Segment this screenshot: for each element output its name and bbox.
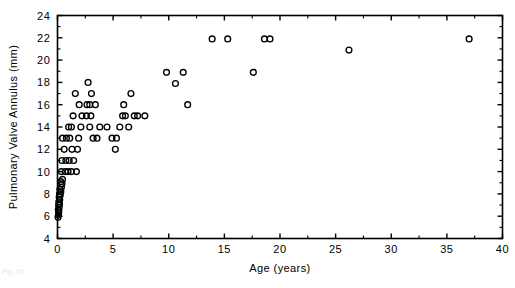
data-point bbox=[76, 135, 82, 141]
y-tick-label: 24 bbox=[37, 10, 50, 22]
y-axis-tick-labels: 4681012141618202224 bbox=[37, 10, 50, 245]
data-point bbox=[209, 36, 215, 42]
data-point bbox=[78, 124, 84, 130]
data-point bbox=[117, 124, 123, 130]
data-point bbox=[70, 113, 76, 119]
data-point-markers bbox=[55, 36, 472, 220]
figure-caption: Fig. 10. bbox=[2, 268, 25, 275]
y-tick-label: 8 bbox=[44, 188, 51, 200]
y-tick-label: 16 bbox=[37, 99, 50, 111]
x-tick-label: 15 bbox=[218, 243, 231, 255]
x-tick-label: 25 bbox=[329, 243, 342, 255]
data-point bbox=[121, 102, 127, 108]
x-axis-title: Age (years) bbox=[249, 262, 310, 274]
data-point bbox=[76, 102, 82, 108]
plot-canvas: 0510152025303540 4681012141618202224 Age… bbox=[0, 0, 515, 288]
data-point bbox=[112, 146, 118, 152]
y-axis-title: Pulmonary Valve Annulus (mm) bbox=[7, 45, 19, 209]
x-tick-label: 30 bbox=[385, 243, 398, 255]
x-tick-label: 40 bbox=[496, 243, 509, 255]
data-point bbox=[225, 36, 231, 42]
x-tick-label: 5 bbox=[110, 243, 117, 255]
data-point bbox=[142, 113, 148, 119]
y-tick-label: 20 bbox=[37, 54, 50, 66]
data-point bbox=[173, 81, 179, 87]
data-point bbox=[104, 124, 110, 130]
data-point bbox=[346, 47, 352, 53]
x-axis-tick-labels: 0510152025303540 bbox=[54, 243, 509, 255]
data-point bbox=[72, 91, 78, 97]
y-axis-ticks bbox=[58, 16, 503, 239]
y-tick-label: 12 bbox=[37, 143, 50, 155]
data-point bbox=[85, 80, 91, 86]
y-tick-label: 4 bbox=[44, 233, 51, 245]
data-point bbox=[89, 91, 95, 97]
scatter-plot-figure: 0510152025303540 4681012141618202224 Age… bbox=[0, 0, 515, 288]
x-tick-label: 20 bbox=[273, 243, 286, 255]
data-point bbox=[180, 69, 186, 75]
data-point bbox=[164, 69, 170, 75]
x-axis-ticks bbox=[58, 16, 503, 239]
plot-frame bbox=[58, 16, 503, 239]
data-point bbox=[250, 69, 256, 75]
data-point bbox=[94, 135, 100, 141]
data-point bbox=[87, 124, 93, 130]
y-tick-label: 10 bbox=[37, 166, 50, 178]
data-point bbox=[128, 91, 134, 97]
x-tick-label: 10 bbox=[162, 243, 175, 255]
data-point bbox=[97, 124, 103, 130]
y-tick-label: 14 bbox=[37, 121, 50, 133]
y-tick-label: 6 bbox=[44, 210, 51, 222]
y-tick-label: 22 bbox=[37, 32, 50, 44]
y-tick-label: 18 bbox=[37, 76, 50, 88]
data-point bbox=[185, 102, 191, 108]
x-tick-label: 0 bbox=[54, 243, 61, 255]
data-point bbox=[126, 124, 132, 130]
x-tick-label: 35 bbox=[440, 243, 453, 255]
data-point bbox=[466, 36, 472, 42]
